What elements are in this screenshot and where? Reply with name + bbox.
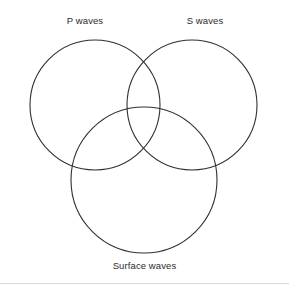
label-surface-waves: Surface waves	[0, 260, 289, 271]
venn-diagram-canvas	[0, 0, 289, 295]
label-s-waves: S waves	[120, 15, 289, 26]
venn-diagram-figure: P waves S waves Surface waves	[0, 0, 289, 295]
bottom-divider	[0, 283, 289, 284]
